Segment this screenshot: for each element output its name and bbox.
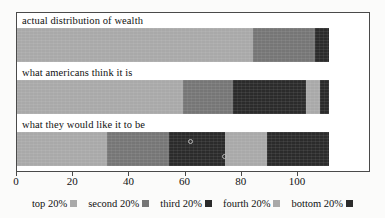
legend-swatch-icon bbox=[70, 200, 77, 207]
stacked-bar-chart: actual distribution of wealth what ameri… bbox=[0, 0, 385, 218]
bar-segment bbox=[17, 80, 183, 114]
legend-label: bottom 20% bbox=[291, 198, 343, 209]
plot-area: actual distribution of wealth what ameri… bbox=[16, 12, 370, 172]
bar-track-0 bbox=[17, 28, 369, 62]
bar-track-2 bbox=[17, 132, 369, 166]
bar-segment bbox=[107, 132, 169, 166]
x-axis-tick-label: 40 bbox=[123, 175, 134, 187]
bar-segment bbox=[320, 80, 328, 114]
legend-item-0[interactable]: top 20% bbox=[32, 198, 77, 209]
legend-label: fourth 20% bbox=[223, 198, 271, 209]
legend-label: second 20% bbox=[88, 198, 139, 209]
legend-item-4[interactable]: bottom 20% bbox=[291, 198, 353, 209]
bar-group-prefer: what they would like it to be bbox=[17, 117, 369, 167]
legend-item-3[interactable]: fourth 20% bbox=[223, 198, 281, 209]
chart-legend: top 20%second 20%third 20%fourth 20%bott… bbox=[0, 193, 385, 213]
bar-segment bbox=[17, 132, 107, 166]
bar-segment bbox=[169, 132, 225, 166]
bar-segment bbox=[315, 28, 329, 62]
bar-group-label-1: what americans think it is bbox=[19, 65, 136, 80]
x-axis-tick-label: 100 bbox=[289, 175, 306, 187]
bar-track-1 bbox=[17, 80, 369, 114]
bar-segment bbox=[306, 80, 320, 114]
legend-item-2[interactable]: third 20% bbox=[160, 198, 212, 209]
bar-segment bbox=[225, 132, 267, 166]
bar-group-label-2: what they would like it to be bbox=[19, 117, 148, 132]
bar-group-actual: actual distribution of wealth bbox=[17, 13, 369, 63]
bar-segment bbox=[253, 28, 315, 62]
bar-group-think: what americans think it is bbox=[17, 65, 369, 115]
bar-segment bbox=[17, 28, 253, 62]
bar-segment bbox=[267, 132, 329, 166]
legend-label: third 20% bbox=[160, 198, 202, 209]
bar-segment bbox=[183, 80, 234, 114]
legend-swatch-icon bbox=[205, 200, 212, 207]
legend-swatch-icon bbox=[346, 200, 353, 207]
legend-label: top 20% bbox=[32, 198, 67, 209]
bar-group-label-0: actual distribution of wealth bbox=[19, 13, 146, 28]
x-axis-tick-label: 0 bbox=[13, 175, 19, 187]
legend-swatch-icon bbox=[273, 200, 280, 207]
legend-swatch-icon bbox=[142, 200, 149, 207]
x-axis-tick-label: 80 bbox=[235, 175, 246, 187]
x-axis: 020406080100 bbox=[16, 172, 370, 190]
x-axis-tick-label: 20 bbox=[67, 175, 78, 187]
x-axis-tick-label: 60 bbox=[179, 175, 190, 187]
legend-item-1[interactable]: second 20% bbox=[88, 198, 149, 209]
bar-segment bbox=[233, 80, 306, 114]
